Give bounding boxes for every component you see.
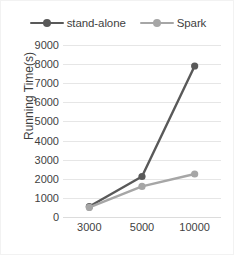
y-axis-tick-label: 2000	[17, 173, 59, 185]
chart-container: stand-alone Spark Running Time(s) 900080…	[0, 0, 234, 255]
series-layer	[63, 45, 221, 217]
legend-dot-spark	[153, 19, 161, 27]
y-axis-tick-label: 6000	[17, 96, 59, 108]
y-axis-tick-label: 5000	[17, 115, 59, 127]
x-axis-tick-label: 5000	[130, 221, 154, 233]
legend-dot-stand-alone	[43, 19, 51, 27]
data-point-marker	[86, 204, 93, 211]
x-axis-tick-labels: 3000500010000	[63, 221, 221, 241]
y-axis-tick-label: 9000	[17, 39, 59, 51]
x-axis-tick-label: 3000	[77, 221, 101, 233]
data-point-marker	[138, 183, 145, 190]
data-point-marker	[138, 173, 145, 180]
gridline	[63, 217, 221, 218]
legend-item-spark[interactable]: Spark	[140, 17, 207, 29]
y-axis-tick-label: 0	[17, 211, 59, 223]
y-axis-tick-label: 4000	[17, 135, 59, 147]
plot-area: 9000800070006000500040003000200010000 30…	[63, 45, 221, 217]
legend-marker-spark	[140, 18, 174, 28]
legend-item-stand-alone[interactable]: stand-alone	[30, 17, 126, 29]
data-point-marker	[191, 62, 198, 69]
y-axis-tick-label: 8000	[17, 58, 59, 70]
y-axis-tick-labels: 9000800070006000500040003000200010000	[17, 45, 59, 217]
legend-label-spark: Spark	[177, 17, 207, 29]
x-axis-tick-label: 10000	[179, 221, 210, 233]
legend-label-stand-alone: stand-alone	[67, 17, 126, 29]
y-axis-tick-label: 7000	[17, 77, 59, 89]
y-axis-tick-label: 3000	[17, 154, 59, 166]
y-axis-tick-label: 1000	[17, 192, 59, 204]
data-point-marker	[191, 170, 198, 177]
